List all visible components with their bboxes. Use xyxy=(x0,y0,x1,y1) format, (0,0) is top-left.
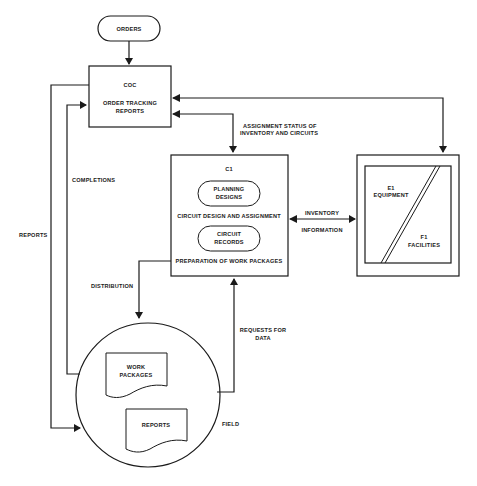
coc-label-line1: ORDER TRACKING xyxy=(103,100,157,106)
assignment-label-line1: ASSIGNMENT STATUS OF xyxy=(243,123,317,129)
coc-label-line2: REPORTS xyxy=(116,108,145,114)
orders-label: ORDERS xyxy=(116,26,141,32)
records-line1: CIRCUIT xyxy=(217,231,241,237)
coc-node: COC ORDER TRACKING REPORTS xyxy=(89,66,171,127)
field-node: WORK PACKAGES REPORTS xyxy=(76,323,220,467)
e1-f1-node: E1 EQUIPMENT F1 FACILITIES xyxy=(357,155,459,276)
coc-id: COC xyxy=(123,82,136,88)
work-packages-document: WORK PACKAGES xyxy=(106,353,167,398)
doc-reports-label: REPORTS xyxy=(142,422,171,428)
reports-arrow xyxy=(51,85,89,428)
circuit-design-function: CIRCUIT DESIGN AND ASSIGNMENT xyxy=(177,213,281,219)
doc-work-line2: PACKAGES xyxy=(120,372,153,378)
f1-id: F1 xyxy=(421,234,428,240)
e1-label: EQUIPMENT xyxy=(373,192,408,198)
inventory-label-line1: INVENTORY xyxy=(305,210,339,216)
c1-id: C1 xyxy=(225,166,233,172)
flow-diagram: ORDERS COC ORDER TRACKING REPORTS ASSIGN… xyxy=(0,0,477,486)
circuit-records-node: CIRCUIT RECORDS xyxy=(198,226,260,251)
planning-designs-node: PLANNING DESIGNS xyxy=(198,181,260,206)
planning-line1: PLANNING xyxy=(214,186,245,192)
reports-label: REPORTS xyxy=(19,232,48,238)
work-packages-function: PREPARATION OF WORK PACKAGES xyxy=(176,258,283,264)
e1-id: E1 xyxy=(387,185,394,191)
c1-node: C1 PLANNING DESIGNS CIRCUIT DESIGN AND A… xyxy=(171,155,288,276)
orders-node: ORDERS xyxy=(98,16,160,41)
coc-c1-connector xyxy=(172,110,233,152)
c1-e1f1-connector xyxy=(289,215,355,223)
doc-work-line1: WORK xyxy=(127,364,146,370)
records-line2: RECORDS xyxy=(214,239,243,245)
assignment-label-line2: INVENTORY AND CIRCUITS xyxy=(240,130,318,136)
inventory-label-line2: INFORMATION xyxy=(301,227,342,233)
reports-document: REPORTS xyxy=(126,409,187,452)
completions-arrow xyxy=(67,105,86,374)
requests-label-line2: DATA xyxy=(255,335,271,341)
field-label: FIELD xyxy=(222,421,239,427)
requests-arrow xyxy=(217,279,234,392)
completions-label: COMPLETIONS xyxy=(72,177,115,183)
planning-line2: DESIGNS xyxy=(216,194,243,200)
f1-label: FACILITIES xyxy=(408,242,440,248)
requests-label-line1: REQUESTS FOR xyxy=(240,327,287,333)
distribution-arrow xyxy=(139,261,171,318)
distribution-label: DISTRIBUTION xyxy=(91,283,133,289)
